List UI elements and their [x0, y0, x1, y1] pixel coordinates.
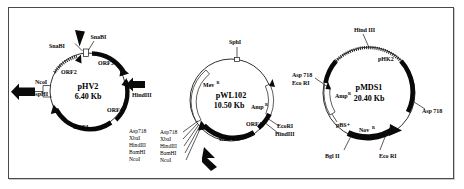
figure-frame: SnaBI SnaBI ORF3 ORF2 ORF4 ORF1 pHV2 6.4…	[8, 7, 454, 179]
phv2-left-arrowhead	[11, 84, 19, 101]
pwl102-ampr-segment	[265, 84, 273, 116]
pmds1-feature-novr-sup: R	[372, 125, 376, 130]
pmds1-site-ecori-left: Eco RI	[292, 80, 310, 86]
pwl102-mevr-segment	[191, 70, 209, 122]
pwl102-feature-mevr-sup: R	[217, 80, 221, 85]
phv2-feature-orf2: ORF2	[61, 69, 77, 75]
pwl102-sitelist-1: XbaI	[160, 136, 171, 142]
pwl102-feature-orf4: ORF4	[246, 121, 262, 127]
phv2-snabi-leader-left	[75, 44, 83, 52]
pwl102-feature-mevr: Mev	[203, 82, 214, 88]
phv2-size: 6.40 Kb	[75, 92, 102, 101]
phv2-sitelist-4: NcoI	[129, 156, 140, 162]
plasmid-panel-phv2: SnaBI SnaBI ORF3 ORF2 ORF4 ORF1 pHV2 6.4…	[15, 8, 171, 178]
phv2-site-hindiii: HindIII	[132, 92, 152, 98]
phv2-sitelist-1: XbaI	[129, 135, 140, 141]
pwl102-feature-orf1: ORF1	[219, 136, 235, 142]
pmds1-site-asp718-right: Asp 718	[422, 108, 442, 114]
pwl102-sitelist-2: HindIII	[160, 143, 177, 149]
phv2-orf3-arrowhead	[120, 67, 130, 77]
pmds1-site-asp718-left: Asp 718	[292, 72, 312, 78]
plasmid-panel-pmds1: Hind III pHK2 Asp 718 Asp 718 Eco RI Amp…	[297, 8, 457, 178]
pmds1-name: pMDS1	[356, 83, 383, 92]
pwl102-site-sphi: SphI	[229, 39, 242, 45]
pmds1-feature-ampr-sup: R	[348, 91, 352, 96]
phv2-sitelist-3: BamHI	[129, 149, 146, 155]
pwl102-sphi-box	[235, 58, 240, 62]
phv2-sitelist-0: Asp718	[129, 128, 147, 134]
pmds1-hindiii-leader	[363, 34, 369, 48]
pmds1-feature-phk2: pHK2	[378, 56, 394, 62]
phv2-snabi-box	[84, 49, 89, 57]
pmds1-phk2-arc-left	[326, 61, 337, 83]
pmds1-feature-novr: Nov	[359, 127, 369, 133]
phv2-feature-orf1: ORF1	[73, 124, 89, 130]
phv2-site-snabi-left: SnaBI	[49, 43, 65, 49]
pwl102-left-black-arrow	[202, 147, 217, 171]
phv2-site-bsphi: BspHI	[32, 91, 49, 97]
phv2-sitelist-2: HindIII	[129, 142, 146, 148]
pmds1-site-ecori-bottom: Eco RI	[379, 153, 397, 159]
pwl102-size: 10.50 Kb	[214, 101, 245, 110]
pwl102-site-ecori: EcoRI	[277, 123, 294, 129]
pmds1-size: 20.40 Kb	[354, 94, 385, 103]
pmds1-site-hindiii: Hind III	[354, 27, 376, 33]
pmds1-feature-ampr: Amp	[335, 93, 348, 99]
plasmid-panel-pwl102: SphI Mev R Amp R ORF1 ORF4 pWL102 10.50 …	[159, 8, 309, 178]
phv2-feature-orf3: ORF3	[98, 60, 114, 66]
pmds1-ecori-leader	[380, 137, 385, 150]
phv2-site-snabi-top: SnaBI	[91, 34, 107, 40]
plasmid-map-figure: SnaBI SnaBI ORF3 ORF2 ORF4 ORF1 pHV2 6.4…	[0, 0, 464, 189]
phv2-hindiii-arrow-tail	[133, 81, 145, 88]
pwl102-ampr-arrowhead	[269, 79, 275, 87]
phv2-feature-orf4: ORF4	[107, 107, 123, 113]
phv2-name: pHV2	[78, 82, 99, 91]
pmds1-novr-arc	[348, 129, 394, 137]
pmds1-phk2-arc-right	[401, 61, 413, 112]
phv2-site-ncoi: NcoI	[35, 79, 48, 85]
pwl102-sitelist-0: Asp718	[160, 129, 178, 135]
pwl102-fan-0	[183, 121, 198, 132]
pmds1-site-bglii: Bgl II	[325, 153, 340, 159]
phv2-snabi-leader-right	[89, 41, 95, 50]
pwl102-feature-ampr: Amp	[251, 104, 264, 110]
pwl102-sitelist-3: BamHI	[160, 150, 177, 156]
pwl102-name: pWL102	[216, 91, 246, 100]
phv2-insertion-triangle	[75, 30, 85, 47]
pwl102-site-hindiii: HindIII	[275, 131, 295, 137]
pmds1-ampr-segment	[324, 85, 335, 115]
pmds1-feature-pbs: pBS+	[336, 122, 351, 128]
pmds1-novr-arrowhead	[389, 124, 402, 136]
pwl102-fan-3	[185, 127, 200, 154]
pmds1-bglii-leader	[344, 136, 351, 150]
pwl102-sitelist-4: NcoI	[160, 157, 171, 163]
